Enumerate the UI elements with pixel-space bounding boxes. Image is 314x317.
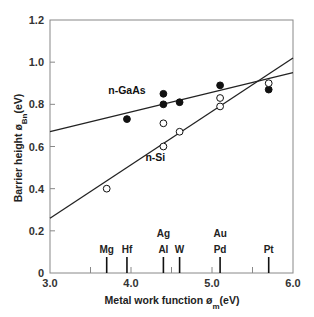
x-tick-label: 5.0 [204,277,219,289]
y-tick-label: 0.4 [29,183,45,195]
filled-circle-marker [160,101,167,108]
x-axis-title: Metal work function øm(eV) [105,294,240,311]
open-circle-marker [217,103,224,110]
data-points [103,80,272,192]
filled-circle-marker [265,86,272,93]
filled-circle-marker [217,82,224,89]
x-tick-label: 4.0 [123,277,138,289]
fit-lines [50,58,293,218]
series-label-n-si: n-Si [145,151,165,163]
plot-frame [50,20,293,273]
y-tick-label: 0.8 [29,98,44,110]
metal-label: Mg [99,244,113,255]
y-tick-label: 1.2 [29,14,44,26]
open-circle-marker [160,120,167,127]
metal-label: Al [158,244,168,255]
open-circle-marker [103,185,110,192]
plot-border [50,20,293,273]
y-tick-label: 0.2 [29,225,44,237]
filled-circle-marker [160,90,167,97]
metal-label: Au [213,228,226,239]
series-label-n-gaas: n-GaAs [108,84,146,96]
metal-label: Pd [214,244,227,255]
fit-line-n-si [50,58,293,218]
x-axis-ticks: 3.04.05.06.0 [42,267,300,289]
unit: (eV) [220,294,240,306]
y-axis-title: Barrier height øBn(eV) [12,94,29,203]
open-circle-marker [160,143,167,150]
metal-work-function-markers: MgHfAgAlWAuPdPt [99,228,274,273]
unit: (eV) [12,94,24,114]
open-circle-marker [217,95,224,102]
x-tick-label: 3.0 [42,277,57,289]
x-tick-label: 6.0 [285,277,300,289]
open-circle-marker [176,128,183,135]
series-labels: n-GaAsn-Si [108,84,165,163]
y-tick-label: 1.0 [29,56,44,68]
barrier-height-chart: 00.20.40.60.81.01.2 3.04.05.06.0 MgHfAgA… [0,0,314,317]
filled-circle-marker [176,99,183,106]
metal-label: Pt [264,244,275,255]
metal-label: W [175,244,185,255]
y-tick-label: 0.6 [29,141,44,153]
subscript: Bn [20,113,29,124]
filled-circle-marker [124,116,131,123]
y-axis-ticks: 00.20.40.60.81.01.2 [29,14,55,279]
open-circle-marker [265,80,272,87]
metal-label: Hf [122,244,133,255]
metal-label: Ag [157,228,170,239]
subscript: m [212,302,219,311]
